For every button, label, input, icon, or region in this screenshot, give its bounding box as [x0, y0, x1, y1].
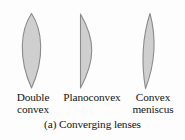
converging-lenses-figure: Double convex Planoconvex Convex meniscu…	[0, 0, 185, 140]
lens-label-convex-meniscus-line1: Convex	[122, 92, 184, 104]
lens-label-double-convex: Double convex	[2, 92, 64, 115]
lens-shape-convex-meniscus	[143, 14, 154, 89]
lens-shape-double-convex	[22, 14, 40, 89]
lens-label-planoconvex: Planoconvex	[60, 92, 124, 104]
lens-label-double-convex-line2: convex	[2, 104, 64, 116]
lens-shape-planoconvex	[81, 14, 92, 88]
lens-label-convex-meniscus: Convex meniscus	[122, 92, 184, 115]
figure-caption: (a) Converging lenses	[0, 118, 185, 131]
lens-label-double-convex-line1: Double	[2, 92, 64, 104]
lens-label-planoconvex-line1: Planoconvex	[60, 92, 124, 104]
lens-diagram-stage	[0, 0, 185, 92]
lens-shapes-svg	[0, 0, 185, 92]
lens-labels-row: Double convex Planoconvex Convex meniscu…	[0, 90, 185, 116]
lens-label-convex-meniscus-line2: meniscus	[122, 104, 184, 116]
